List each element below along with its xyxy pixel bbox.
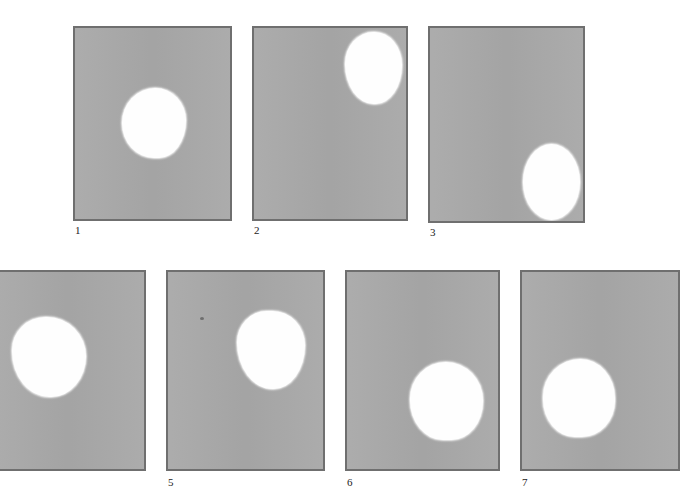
panel-6-label: 6 (347, 477, 353, 488)
panel-6-frame (345, 270, 500, 471)
panel-5-white-blob (237, 311, 305, 389)
panel-3-white-blob (523, 144, 580, 220)
panel-4-frame (0, 270, 146, 471)
panel-1-frame (73, 26, 232, 221)
panel-1-white-blob (122, 88, 186, 158)
panel-7-white-blob (543, 359, 615, 437)
panel-3-label: 3 (430, 227, 436, 238)
panel-2-white-blob (345, 32, 402, 104)
panel-5-speck (200, 317, 204, 320)
panel-3-frame (428, 26, 585, 223)
panel-5-frame (166, 270, 325, 471)
panel-1-label: 1 (75, 225, 81, 236)
panel-5-label: 5 (168, 477, 174, 488)
panel-6-white-blob (410, 362, 483, 440)
panel-2-frame (252, 26, 408, 221)
panel-2-label: 2 (254, 225, 260, 236)
panel-7-label: 7 (522, 477, 528, 488)
panel-4-white-blob (12, 317, 86, 397)
panel-7-frame (520, 270, 680, 471)
